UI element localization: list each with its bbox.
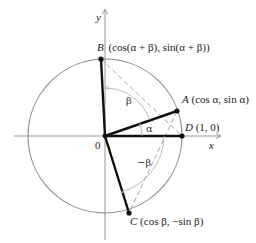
point-O	[103, 134, 108, 139]
x-axis-label: x	[208, 139, 214, 151]
angle-neg-beta-label: −β	[137, 157, 151, 168]
point-B	[98, 56, 103, 61]
label-A-name: A	[181, 93, 189, 105]
label-B-coords: (cos(α + β), sin(α + β))	[108, 41, 209, 54]
unit-circle-diagram: y x 0 B (cos(α + β), sin(α + β)) A (cos …	[0, 0, 256, 243]
label-C: C (cos β, −sin β)	[130, 215, 204, 228]
point-A	[174, 108, 179, 113]
point-D	[179, 133, 184, 138]
label-A-coords: (cos α, sin α)	[191, 93, 249, 106]
y-axis-label: y	[95, 11, 101, 23]
radius-OA	[105, 111, 177, 136]
radius-OC	[105, 136, 129, 213]
label-D: D (1, 0)	[184, 121, 220, 134]
label-D-coords: (1, 0)	[196, 121, 220, 134]
origin-label: 0	[95, 139, 101, 151]
label-A: A (cos α, sin α)	[181, 93, 249, 106]
diagram-canvas: y x 0 B (cos(α + β), sin(α + β)) A (cos …	[0, 0, 256, 243]
label-B-name: B	[97, 41, 104, 53]
label-C-coords: (cos β, −sin β)	[140, 215, 204, 228]
radius-OB	[101, 59, 105, 136]
angle-alpha-label: α	[146, 123, 153, 134]
angle-beta-label: β	[126, 95, 132, 106]
label-D-name: D	[184, 121, 193, 133]
label-C-name: C	[130, 215, 138, 227]
angle-alpha-arc	[140, 124, 142, 136]
label-B: B (cos(α + β), sin(α + β))	[97, 41, 210, 54]
